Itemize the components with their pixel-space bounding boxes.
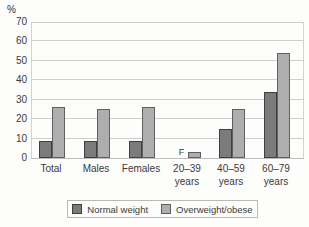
bar-overweight-obese [188, 152, 201, 158]
y-tick-label: 20 [4, 113, 27, 124]
gridline [32, 60, 303, 61]
gridline [32, 99, 303, 100]
bar-overweight-obese [232, 109, 245, 158]
bar-normal-weight [84, 141, 97, 158]
bar-normal-weight [39, 141, 52, 158]
bar-normal-weight [264, 92, 277, 158]
bar-overweight-obese [142, 107, 155, 158]
gridline [32, 22, 303, 23]
bar-overweight-obese [277, 53, 290, 158]
bar-normal-weight [219, 129, 232, 158]
legend-item-normal-weight: Normal weight [72, 204, 148, 215]
bar-overweight-obese [52, 107, 65, 158]
suppressed-data-flag: F [175, 147, 188, 157]
legend: Normal weight Overweight/obese [67, 200, 258, 218]
y-tick-label: 50 [4, 55, 27, 66]
gridline [32, 40, 303, 41]
legend-item-overweight-obese: Overweight/obese [161, 204, 253, 215]
y-axis-unit-label: % [7, 4, 16, 15]
bar-chart-figure: % F 010203040506070 TotalMalesFemales20–… [0, 0, 309, 227]
x-category-label: 60–79 years [244, 162, 308, 188]
legend-label-overweight-obese: Overweight/obese [176, 204, 253, 215]
legend-swatch-normal-weight [72, 204, 82, 214]
gridline [32, 118, 303, 119]
bar-overweight-obese [97, 109, 110, 158]
legend-swatch-overweight-obese [161, 204, 171, 214]
gridline [32, 138, 303, 139]
y-tick-label: 30 [4, 94, 27, 105]
y-tick-label: 70 [4, 16, 27, 27]
y-tick-label: 10 [4, 133, 27, 144]
y-tick-label: 40 [4, 74, 27, 85]
plot-area: F [31, 22, 304, 159]
bar-normal-weight [129, 141, 142, 158]
y-tick-label: 60 [4, 35, 27, 46]
legend-label-normal-weight: Normal weight [87, 204, 148, 215]
gridline [32, 79, 303, 80]
